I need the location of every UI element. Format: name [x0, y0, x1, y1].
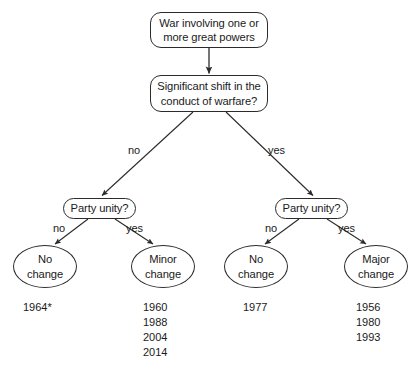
year-item: 1988 [143, 315, 167, 330]
connector-lines [0, 0, 415, 365]
year-item: 1980 [356, 315, 380, 330]
node-root: War involving one or more great powers [150, 12, 268, 48]
node-outcome-no-change-right-line2: change [238, 267, 274, 282]
decision-tree-diagram: War involving one or more great powers S… [0, 0, 415, 365]
node-root-line1: War involving one or [159, 16, 259, 31]
node-outcome-no-change-right-line1: No [249, 252, 263, 267]
node-party-unity-right: Party unity? [275, 198, 348, 219]
node-outcome-no-change-left: No change [13, 245, 77, 288]
year-item: 1964* [23, 300, 52, 315]
year-list-no-change-left: 1964* [23, 300, 52, 315]
node-outcome-minor-change-line2: change [145, 267, 181, 282]
node-outcome-major-change-line2: change [358, 267, 394, 282]
node-significant-shift-line2: conduct of warfare? [161, 94, 257, 109]
node-significant-shift-line1: Significant shift in the [157, 79, 260, 94]
node-root-line2: more great powers [163, 30, 255, 45]
year-list-major-change: 195619801993 [356, 300, 380, 345]
edge-label-shift-yes: yes [268, 144, 285, 156]
node-outcome-no-change-left-line2: change [27, 267, 63, 282]
node-outcome-major-change: Major change [344, 245, 408, 288]
year-item: 1956 [356, 300, 380, 315]
edge-label-left-unity-yes: yes [126, 222, 143, 234]
edge-label-left-unity-no: no [53, 222, 65, 234]
year-item: 1960 [143, 300, 167, 315]
year-item: 2004 [143, 330, 167, 345]
node-significant-shift: Significant shift in the conduct of warf… [150, 75, 268, 112]
edge-label-right-unity-no: no [265, 222, 277, 234]
node-outcome-no-change-left-line1: No [38, 252, 52, 267]
node-outcome-major-change-line1: Major [362, 252, 389, 267]
edge-label-shift-no: no [128, 144, 140, 156]
node-outcome-no-change-right: No change [224, 245, 288, 288]
node-party-unity-right-label: Party unity? [283, 201, 341, 216]
node-party-unity-left-label: Party unity? [71, 201, 129, 216]
year-list-minor-change: 1960198820042014 [143, 300, 167, 360]
node-outcome-minor-change: Minor change [131, 245, 195, 288]
year-item: 1993 [356, 330, 380, 345]
node-outcome-minor-change-line1: Minor [149, 252, 176, 267]
node-party-unity-left: Party unity? [63, 198, 136, 219]
year-list-no-change-right: 1977 [243, 300, 267, 315]
edge-label-right-unity-yes: yes [338, 222, 355, 234]
year-item: 2014 [143, 345, 167, 360]
year-item: 1977 [243, 300, 267, 315]
